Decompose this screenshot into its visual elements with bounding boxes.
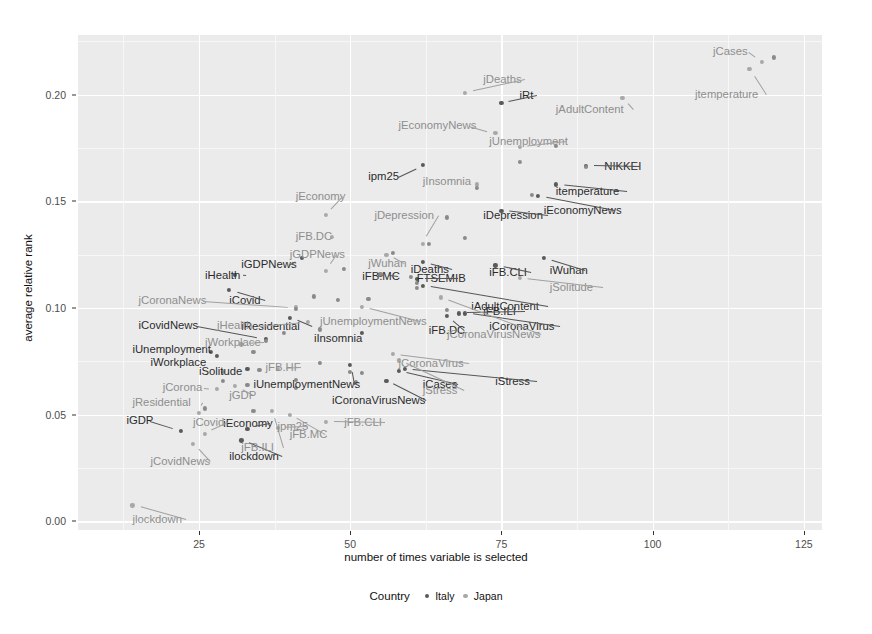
point-label: iUnemploymentNews [253,379,360,390]
grid-line-horizontal [78,415,822,416]
legend-label: Japan [474,590,503,602]
point-label: iFB.MC [362,272,400,283]
point-label: iCoronaVirusNews [332,395,425,406]
scatter-plot-figure: 0.000.050.100.150.20255075100125 iCasesi… [0,0,872,634]
grid-line-vertical [804,35,805,530]
legend-title: Country [370,590,410,602]
grid-line-vertical [501,35,502,530]
grid-line-horizontal-minor [78,41,822,42]
label-leader-line [286,426,308,428]
point-label: jFB.DC [296,231,332,242]
x-tick-label: 100 [628,538,678,550]
legend: Country ItalyJapan [0,590,872,602]
point-label: iSolitude [199,366,242,377]
point-label: iWorkplace [151,357,207,368]
point-label: ipm25 [368,171,399,182]
point-label: jDepression [374,211,434,222]
grid-line-vertical [350,35,351,530]
point-label: jHealth [217,321,252,332]
y-tick-mark [72,201,76,202]
y-tick-label: 0.20 [20,89,66,101]
x-tick-mark [350,531,351,535]
x-tick-mark [501,531,502,535]
legend-item-italy[interactable]: Italy [425,590,455,602]
point-label: jInsomnia [423,177,471,188]
grid-line-vertical-minor [123,35,124,530]
point-label: iEconomyNews [544,205,622,216]
point-label: jFB.CLI [344,418,382,429]
grid-line-horizontal-minor [78,255,822,256]
y-tick-mark [72,94,76,95]
point-label: jAdultContent [556,104,624,115]
grid-line-vertical-minor [728,35,729,530]
point-label: jFB.ILI [241,442,274,453]
y-tick-mark [72,308,76,309]
legend-label: Italy [435,590,454,602]
x-tick-label: 125 [779,538,829,550]
point-label: iWuhan [550,265,588,276]
x-axis-title: number of times variable is selected [0,551,872,563]
x-tick-mark [199,531,200,535]
grid-line-horizontal-minor [78,468,822,469]
point-label: iUnemployment [132,344,210,355]
y-tick-label: 0.00 [20,515,66,527]
legend-dot-japan-icon [463,594,467,598]
x-tick-mark [653,531,654,535]
y-axis-title: average relative rank [22,168,34,408]
x-tick-mark [804,531,805,535]
point-label: jCorona [163,382,203,393]
x-tick-label: 25 [174,538,224,550]
point-label: jEconomyNews [399,120,477,131]
grid-line-horizontal [78,308,822,309]
point-label: iCovidNews [138,321,198,332]
point-label: jCovid [193,418,224,429]
point-label: jtemperature [695,89,758,100]
point-label: NIKKEI [604,162,641,173]
point-label: FTSEMIB [417,274,466,285]
point-label: iFB.CLI [489,267,527,278]
x-tick-label: 50 [325,538,375,550]
point-label: jCoronaVirusNews [447,329,540,340]
point-label: jResidential [132,397,190,408]
point-label: jStress [423,386,458,397]
y-tick-mark [72,521,76,522]
point-label: iHealth [205,270,240,281]
point-label: iDepression [483,211,543,222]
point-label: jCoronaNews [138,295,206,306]
grid-line-horizontal-minor [78,148,822,149]
y-tick-mark [72,414,76,415]
legend-dot-italy-icon [425,594,429,598]
point-label: iInsomnia [314,333,362,344]
grid-line-vertical [653,35,654,530]
legend-item-japan[interactable]: Japan [463,590,502,602]
grid-line-horizontal [78,521,822,522]
grid-line-horizontal [78,201,822,202]
y-tick-label: 0.05 [20,409,66,421]
point-label: jCases [713,46,748,57]
x-tick-label: 75 [476,538,526,550]
point-label: jCovidNews [151,456,211,467]
